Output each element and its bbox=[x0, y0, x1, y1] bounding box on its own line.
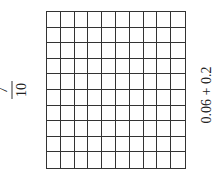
grid-cell bbox=[157, 152, 171, 168]
grid-cell bbox=[130, 137, 144, 153]
grid-cell bbox=[102, 152, 116, 168]
decimal-sum-expression: 0.06 + 0.2 bbox=[199, 67, 215, 124]
grid-cell bbox=[102, 43, 116, 59]
grid-cell bbox=[88, 28, 102, 44]
grid-cell bbox=[47, 12, 61, 28]
grid-cell bbox=[144, 90, 158, 106]
grid-cell bbox=[144, 59, 158, 75]
grid-cell bbox=[61, 28, 75, 44]
grid-cell bbox=[116, 121, 130, 137]
grid-cell bbox=[157, 74, 171, 90]
grid-cell bbox=[102, 59, 116, 75]
grid-cell bbox=[75, 59, 89, 75]
grid-cell bbox=[61, 106, 75, 122]
grid-cell bbox=[171, 152, 185, 168]
grid-cell bbox=[102, 121, 116, 137]
grid-cell bbox=[116, 74, 130, 90]
grid-cell bbox=[61, 59, 75, 75]
grid-cell bbox=[61, 12, 75, 28]
grid-cell bbox=[47, 90, 61, 106]
grid-cell bbox=[171, 43, 185, 59]
grid-cell bbox=[157, 43, 171, 59]
grid-cell bbox=[157, 28, 171, 44]
grid-cell bbox=[171, 90, 185, 106]
grid-cell bbox=[47, 74, 61, 90]
grid-cell bbox=[102, 12, 116, 28]
grid-cell bbox=[144, 152, 158, 168]
grid-cell bbox=[47, 59, 61, 75]
grid-cell bbox=[171, 121, 185, 137]
grid-cell bbox=[157, 106, 171, 122]
grid-cell bbox=[88, 137, 102, 153]
grid-cell bbox=[130, 152, 144, 168]
grid-cell bbox=[75, 43, 89, 59]
grid-cell bbox=[130, 74, 144, 90]
grid-cell bbox=[157, 90, 171, 106]
grid-cell bbox=[116, 59, 130, 75]
grid-cell bbox=[61, 137, 75, 153]
grid-cell bbox=[88, 43, 102, 59]
grid-cell bbox=[171, 106, 185, 122]
grid-cell bbox=[116, 43, 130, 59]
grid-cell bbox=[88, 74, 102, 90]
grid-cell bbox=[116, 106, 130, 122]
grid-cell bbox=[75, 90, 89, 106]
grid-cell bbox=[47, 121, 61, 137]
grid-cell bbox=[102, 137, 116, 153]
grid-cell bbox=[75, 152, 89, 168]
grid-cell bbox=[88, 121, 102, 137]
grid-cell bbox=[88, 90, 102, 106]
grid-cell bbox=[144, 12, 158, 28]
grid-cell bbox=[116, 137, 130, 153]
grid-cell bbox=[171, 28, 185, 44]
grid-cell bbox=[130, 59, 144, 75]
grid-cell bbox=[130, 90, 144, 106]
grid-cell bbox=[47, 43, 61, 59]
grid-cell bbox=[144, 137, 158, 153]
grid-cell bbox=[171, 59, 185, 75]
fraction-seven-tenths: 7 10 bbox=[0, 81, 29, 99]
grid-cell bbox=[47, 137, 61, 153]
fraction-numerator: 7 bbox=[0, 87, 10, 94]
fraction-denominator: 10 bbox=[15, 83, 29, 97]
grid-cell bbox=[171, 74, 185, 90]
grid-cell bbox=[171, 137, 185, 153]
grid-cell bbox=[102, 74, 116, 90]
grid-cell bbox=[75, 121, 89, 137]
grid-cell bbox=[157, 137, 171, 153]
grid-cell bbox=[130, 43, 144, 59]
hundred-grid bbox=[46, 11, 186, 169]
grid-cell bbox=[75, 74, 89, 90]
grid-cell bbox=[61, 74, 75, 90]
grid-cell bbox=[144, 43, 158, 59]
grid-cell bbox=[116, 152, 130, 168]
grid-cell bbox=[171, 12, 185, 28]
grid-cell bbox=[61, 152, 75, 168]
grid-cell bbox=[61, 90, 75, 106]
grid-cell bbox=[116, 28, 130, 44]
grid-cell bbox=[102, 28, 116, 44]
grid-cell bbox=[75, 137, 89, 153]
grid-cell bbox=[157, 121, 171, 137]
grid-cell bbox=[144, 121, 158, 137]
grid-cell bbox=[47, 28, 61, 44]
grid-cell bbox=[102, 90, 116, 106]
grid-cell bbox=[102, 106, 116, 122]
grid-cell bbox=[144, 28, 158, 44]
grid-cell bbox=[88, 152, 102, 168]
grid-cell bbox=[47, 106, 61, 122]
grid-cell bbox=[88, 106, 102, 122]
grid-cell bbox=[157, 59, 171, 75]
grid-cell bbox=[75, 28, 89, 44]
grid-cell bbox=[61, 121, 75, 137]
grid-cell bbox=[116, 12, 130, 28]
grid-cell bbox=[130, 106, 144, 122]
grid-cell bbox=[144, 74, 158, 90]
grid-cell bbox=[130, 12, 144, 28]
grid-cell bbox=[88, 59, 102, 75]
grid-cell bbox=[144, 106, 158, 122]
grid-cell bbox=[75, 12, 89, 28]
grid-cell bbox=[88, 12, 102, 28]
grid-cell bbox=[157, 12, 171, 28]
grid-cell bbox=[61, 43, 75, 59]
